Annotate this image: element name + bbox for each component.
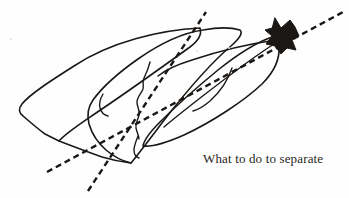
paper-speck bbox=[228, 47, 230, 49]
dashed-line-steep bbox=[88, 12, 206, 191]
sketch-page: What to do to separate bbox=[0, 0, 349, 198]
hand-drawn-figure bbox=[0, 0, 349, 198]
left-leaf-outline bbox=[19, 28, 200, 141]
middle-jagged-stroke bbox=[136, 62, 150, 139]
paper-speck bbox=[196, 50, 198, 52]
arrowhead bbox=[265, 18, 299, 54]
figure-caption: What to do to separate bbox=[203, 151, 323, 166]
dashed-line-shallow bbox=[47, 11, 345, 172]
paper-speck bbox=[10, 38, 12, 40]
